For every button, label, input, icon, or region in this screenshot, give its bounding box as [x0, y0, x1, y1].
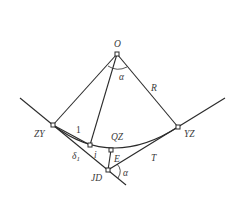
point-qz [109, 148, 113, 152]
curve-diagram: O α R ZY YZ QZ E T JD α 1 i δ1 [0, 0, 241, 199]
radius-to-yz [117, 54, 178, 127]
point-yz [176, 125, 180, 129]
label-yz: YZ [184, 129, 195, 139]
deflection-angle-arc [117, 164, 120, 178]
label-qz: QZ [111, 132, 124, 142]
label-o: O [114, 39, 121, 49]
label-e: E [113, 154, 120, 164]
point-zy [51, 123, 55, 127]
label-alpha-deflection: α [123, 168, 129, 178]
label-1: 1 [76, 125, 81, 135]
point-1 [88, 143, 92, 147]
label-r: R [150, 83, 157, 93]
radius-to-zy [53, 54, 117, 125]
point-jd [106, 168, 110, 172]
chord-zy-to-1 [53, 125, 90, 145]
external-distance-line [108, 150, 111, 170]
label-i: i [94, 150, 97, 160]
label-delta-1: δ1 [72, 151, 80, 163]
center-angle-arc [108, 66, 127, 69]
label-jd: JD [91, 173, 102, 183]
label-alpha-center: α [119, 72, 125, 82]
label-t: T [151, 153, 157, 163]
delta-subscript: 1 [76, 155, 80, 163]
label-zy: ZY [34, 129, 46, 139]
point-o [115, 52, 119, 56]
